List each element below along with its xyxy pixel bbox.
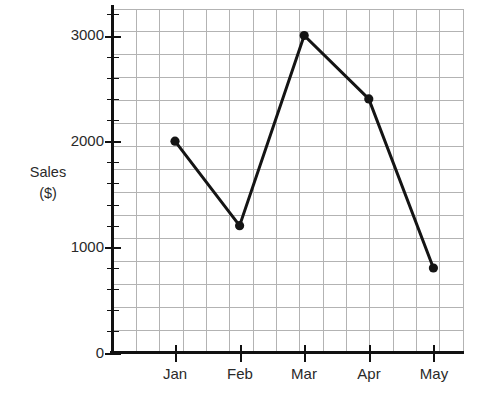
y-axis-title-line2: ($)	[39, 185, 57, 201]
data-point-jan	[170, 137, 179, 146]
y-axis-tick-labels: 3000 2000 1000 0	[71, 26, 104, 361]
y-tick-label-1000: 1000	[71, 238, 104, 255]
grid-lines	[113, 9, 464, 354]
data-point-mar	[300, 31, 309, 40]
x-tick-label-mar: Mar	[291, 365, 317, 382]
x-tick-label-jan: Jan	[163, 365, 187, 382]
sales-line-chart: 3000 2000 1000 0 Jan Feb Mar Apr May Sal…	[0, 0, 480, 395]
chart-canvas: 3000 2000 1000 0 Jan Feb Mar Apr May Sal…	[0, 0, 480, 395]
data-point-may	[429, 263, 438, 272]
axes	[111, 6, 463, 353]
y-axis-title-line1: Sales	[30, 164, 66, 180]
y-tick-label-3000: 3000	[71, 26, 104, 43]
series-markers	[170, 31, 438, 273]
x-axis-tick-labels: Jan Feb Mar Apr May	[163, 365, 449, 382]
series-line-sales	[175, 36, 433, 269]
data-point-feb	[235, 221, 244, 230]
y-axis-title: Sales ($)	[30, 164, 66, 201]
y-tick-label-2000: 2000	[71, 132, 104, 149]
x-tick-label-feb: Feb	[227, 365, 253, 382]
x-tick-label-may: May	[420, 365, 449, 382]
x-tick-label-apr: Apr	[357, 365, 380, 382]
data-point-apr	[364, 94, 373, 103]
data-series-sales	[170, 31, 438, 273]
y-tick-label-0: 0	[96, 344, 104, 361]
